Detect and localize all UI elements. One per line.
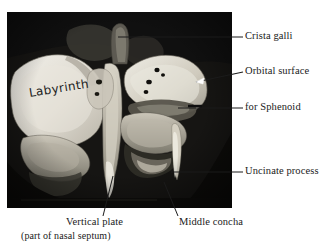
callout-crista-galli: Crista galli [245, 30, 293, 41]
specimen-illustration [7, 12, 232, 208]
anatomical-figure: Labyrinth Crista galli Orbital surface f… [0, 0, 331, 249]
callout-for-sphenoid: for Sphenoid [245, 101, 301, 112]
callout-uncinate-process: Uncinate process [245, 165, 319, 176]
callout-middle-concha: Middle concha [179, 216, 243, 227]
callout-vertical-plate: Vertical plate [66, 216, 123, 227]
specimen-photograph: Labyrinth [7, 12, 232, 208]
callout-orbital-surface: Orbital surface [245, 65, 309, 76]
callout-vertical-plate-subtitle: (part of nasal septum) [21, 230, 111, 241]
